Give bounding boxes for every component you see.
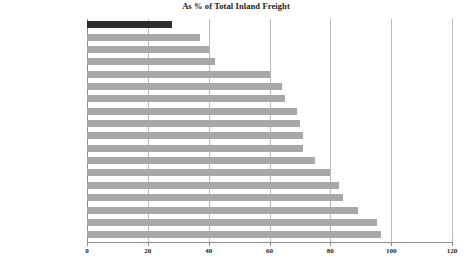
x-tick-mark-60 (270, 242, 271, 246)
x-tick-mark-40 (209, 242, 210, 246)
bar-united-states (87, 21, 172, 28)
bar-row: Ireland (87, 229, 452, 241)
x-tick-mark-120 (452, 242, 453, 246)
x-tick-mark-80 (330, 242, 331, 246)
bar-italy (87, 182, 339, 189)
bar-norway (87, 145, 303, 152)
x-tick-label-0: 0 (72, 247, 102, 255)
bar-luxembourg (87, 58, 215, 65)
bar-row: Belgium (87, 155, 452, 167)
x-tick-label-120: 120 (437, 247, 467, 255)
bar-ireland (87, 231, 381, 238)
bar-greece (87, 219, 377, 226)
bar-belgium (87, 157, 315, 164)
chart-title: As % of Total Inland Freight (0, 1, 472, 11)
bar-germany (87, 95, 285, 102)
bar-row: Germany (87, 93, 452, 105)
bar-row: United States (87, 19, 452, 31)
bar-france (87, 120, 300, 127)
bar-denmark (87, 71, 270, 78)
bar-portugal (87, 169, 330, 176)
bar-row: Denmark (87, 68, 452, 80)
bar-spain (87, 207, 358, 214)
bar-row: France (87, 118, 452, 130)
bar-austria (87, 46, 209, 53)
bar-united-kingdom (87, 194, 343, 201)
bar-sweden (87, 83, 282, 90)
x-tick-mark-100 (391, 242, 392, 246)
x-tick-label-40: 40 (194, 247, 224, 255)
x-tick-label-80: 80 (315, 247, 345, 255)
bar-row: Norway (87, 143, 452, 155)
bar-row: Switzerland (87, 105, 452, 117)
gridline-120 (452, 19, 453, 242)
bar-row: Spain (87, 204, 452, 216)
bar-row: Luxembourg (87, 56, 452, 68)
x-tick-mark-0 (87, 242, 88, 246)
bar-row: Austria (87, 44, 452, 56)
x-tick-label-60: 60 (255, 247, 285, 255)
bar-row: Greece (87, 217, 452, 229)
bar-row: Netherlands (87, 31, 452, 43)
bar-finland (87, 132, 303, 139)
bar-chart: As % of Total Inland Freight United Stat… (0, 0, 472, 270)
x-tick-label-100: 100 (376, 247, 406, 255)
bar-row: Italy (87, 180, 452, 192)
bar-row: United Kingdom (87, 192, 452, 204)
bar-switzerland (87, 108, 297, 115)
bar-row: Sweden (87, 81, 452, 93)
bar-row: Portugal (87, 167, 452, 179)
x-tick-label-20: 20 (133, 247, 163, 255)
bar-row: Finland (87, 130, 452, 142)
bar-netherlands (87, 34, 200, 41)
x-tick-mark-20 (148, 242, 149, 246)
plot-area: United StatesNetherlandsAustriaLuxembour… (87, 19, 452, 242)
